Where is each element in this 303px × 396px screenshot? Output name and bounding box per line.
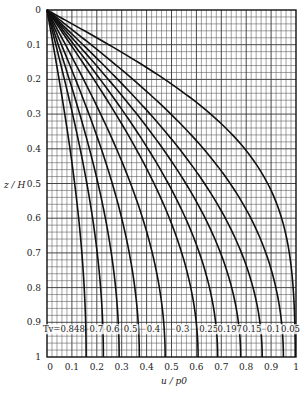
x-tick-label: 0.8 (239, 362, 254, 372)
x-axis-ticks: 00.10.20.30.40.50.60.70.80.91 (47, 362, 299, 372)
y-tick-label: 0.3 (27, 109, 42, 119)
y-tick-label: 0.4 (27, 144, 42, 154)
y-axis-label: z / H (3, 180, 25, 190)
y-tick-label: 0.1 (27, 40, 41, 50)
curve-label-tv: 0.5 (124, 324, 138, 334)
y-tick-label: 0.5 (27, 179, 42, 189)
curve-label-tv: 0.15 (243, 324, 262, 334)
x-tick-label: 0.4 (139, 362, 154, 372)
curve-label-tv: 0.6 (106, 324, 120, 334)
y-tick-label: 0.8 (27, 283, 42, 293)
curve-label-tv: 0.4 (147, 324, 161, 334)
x-tick-label: 0.2 (90, 362, 104, 372)
curve-label-tv: 0.1 (267, 324, 281, 334)
y-tick-label: 1 (35, 352, 41, 362)
x-tick-label: 0.9 (264, 362, 279, 372)
consolidation-isochrone-chart: 00.10.20.30.40.50.60.70.80.91 00.10.20.3… (0, 0, 303, 396)
x-tick-label: 0.6 (189, 362, 204, 372)
x-tick-label: 1 (293, 362, 299, 372)
curve-label-tv: 0.3 (176, 324, 190, 334)
curve-label-tv: 0.25 (199, 324, 218, 334)
y-tick-label: 0.6 (27, 213, 42, 223)
curve-label-tv: Tv=0.848 (43, 324, 85, 334)
x-tick-label: 0.3 (115, 362, 130, 372)
x-tick-label: 0.1 (65, 362, 79, 372)
y-axis-ticks: 00.10.20.30.40.50.60.70.80.91 (27, 5, 42, 362)
curve-label-tv: 0.05 (281, 324, 300, 334)
x-tick-label: 0.7 (214, 362, 229, 372)
y-tick-label: 0 (35, 5, 41, 15)
x-tick-label: 0.5 (164, 362, 179, 372)
y-tick-label: 0.7 (27, 248, 42, 258)
x-axis-label: u / p0 (161, 376, 187, 386)
y-tick-label: 0.2 (27, 74, 41, 84)
curve-label-tv: 0.197 (218, 324, 242, 334)
y-tick-label: 0.9 (27, 317, 42, 327)
x-tick-label: 0 (47, 362, 53, 372)
curve-label-tv: 0.7 (90, 324, 104, 334)
